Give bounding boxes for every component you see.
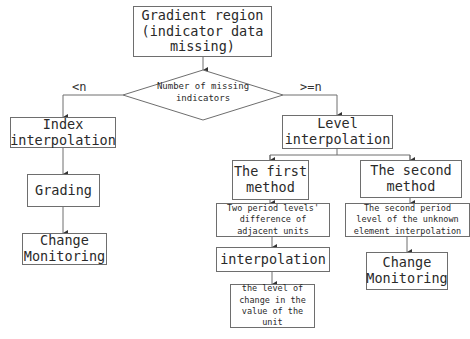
node-interpolation: interpolation [216, 247, 330, 272]
node-change-monitoring-right: Change Monitoring [366, 252, 448, 290]
node-level-change: the level of change in the value of the … [230, 284, 315, 328]
node-start: Gradient region (indicator data missing) [133, 6, 272, 57]
node-grading: Grading [27, 174, 100, 207]
node-decision: Number of missing indicators [140, 80, 266, 104]
node-two-period-levels: Two period levels' difference of adjacen… [216, 203, 330, 237]
edge-label-less: <n [72, 80, 86, 94]
node-second-period-level: The second period level of the unknown e… [345, 203, 470, 237]
node-level-interpolation: Level interpolation [282, 115, 393, 149]
node-index-interpolation: Index interpolation [10, 117, 116, 148]
node-change-monitoring-left: Change Monitoring [22, 233, 107, 265]
edge-label-greater-equal: >=n [300, 80, 322, 94]
node-second-method: The second method [360, 160, 462, 198]
node-first-method: The first method [232, 160, 309, 200]
